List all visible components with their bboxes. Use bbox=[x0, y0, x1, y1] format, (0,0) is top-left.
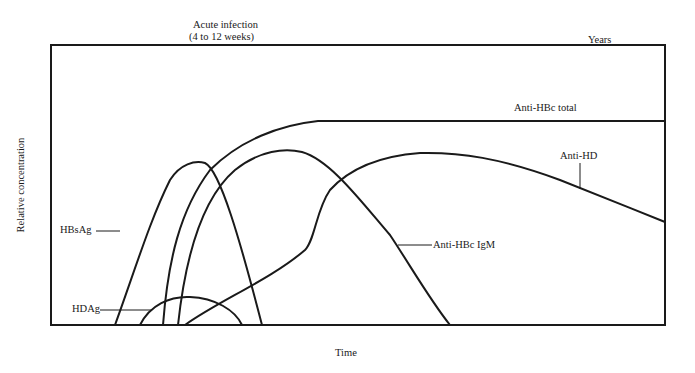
anti-hbc-igm-curve bbox=[178, 150, 450, 325]
anti-hbc-total-label: Anti-HBc total bbox=[514, 102, 577, 114]
hbsag-curve bbox=[115, 162, 262, 325]
anti-hbc-igm-label: Anti-HBc IgM bbox=[433, 239, 495, 251]
hdag-label: HDAg bbox=[72, 303, 100, 315]
anti-hd-curve bbox=[185, 153, 665, 325]
hbsag-label: HBsAg bbox=[60, 224, 92, 236]
anti-hd-label: Anti-HD bbox=[560, 150, 597, 162]
chart-area bbox=[0, 0, 695, 373]
